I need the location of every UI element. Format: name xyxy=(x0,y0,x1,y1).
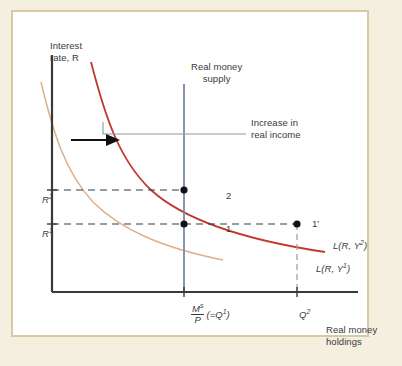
point-1-prime-mark: ' xyxy=(317,218,319,229)
increase-income-label: Increase in real income xyxy=(251,117,301,140)
demand-curve-y2-label: L(R, Y2) xyxy=(333,240,367,252)
demand-curve-y1-label: L(R, Y1) xyxy=(316,263,350,275)
increase-leader-line xyxy=(103,122,246,134)
money-supply-fraction: Ms P xyxy=(191,304,204,325)
increase-income-line1: Increase in xyxy=(251,117,298,128)
y-tick-r2-base: R xyxy=(42,194,49,205)
y-axis-label: Interest rate, R xyxy=(50,40,82,63)
x-tick-label-q2: Q2 xyxy=(299,309,310,321)
figure-root: Interest rate, R Real money supply Incre… xyxy=(0,0,402,366)
curve-y2-suffix: ) xyxy=(364,240,367,251)
x-axis-label-line2: holdings xyxy=(326,336,362,347)
figure-panel: Interest rate, R Real money supply Incre… xyxy=(11,10,369,337)
money-supply-numerator-base: M xyxy=(192,303,200,314)
curve-y2-prefix: L(R, Y xyxy=(333,240,360,251)
y-tick-r1-base: R xyxy=(42,228,49,239)
money-supply-equiv: (=Q1) xyxy=(206,309,229,321)
curve-y1-prefix: L(R, Y xyxy=(316,263,343,274)
point-2-label: 2 xyxy=(226,190,231,202)
point-2-marker xyxy=(180,186,187,193)
money-supply-label-line2: supply xyxy=(203,73,231,84)
money-supply-numerator-sup: s xyxy=(200,302,203,309)
y-tick-r2-sup: 2 xyxy=(49,193,53,200)
money-supply-paren-open: (= xyxy=(206,309,215,320)
point-1-label: 1 xyxy=(226,223,231,235)
x-axis-label-line1: Real money xyxy=(326,324,377,335)
y-tick-label-r2: R2 xyxy=(42,194,53,206)
curve-y1-suffix: ) xyxy=(347,263,350,274)
increase-income-line2: real income xyxy=(251,129,301,140)
y-axis-label-variable: R xyxy=(72,52,79,63)
demand-curve-y1 xyxy=(41,82,223,260)
x-tick-q2-sup: 2 xyxy=(306,308,310,315)
y-tick-r1-sup: 1 xyxy=(49,227,53,234)
money-supply-label-line1: Real money xyxy=(191,61,242,72)
y-axis-label-line1: Interest xyxy=(50,40,82,51)
money-supply-label: Real money supply xyxy=(191,61,242,84)
y-axis-label-line2: rate, xyxy=(50,52,69,63)
shift-arrow-icon xyxy=(71,134,120,146)
y-tick-label-r1: R1 xyxy=(42,228,53,240)
x-axis-label: Real money holdings xyxy=(326,324,377,347)
money-supply-denominator: P xyxy=(194,315,202,325)
money-supply-q: Q xyxy=(215,309,222,320)
point-1-prime-marker xyxy=(293,220,300,227)
money-supply-paren-close: ) xyxy=(227,309,230,320)
x-tick-label-money-supply: Ms P (=Q1) xyxy=(191,304,230,325)
point-1-prime-label: 1' xyxy=(312,218,319,230)
point-1-marker xyxy=(180,220,187,227)
